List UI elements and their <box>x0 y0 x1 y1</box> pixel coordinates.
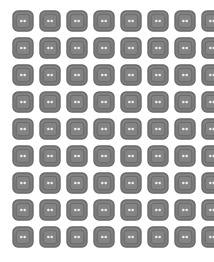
two-hole-button-icon <box>120 118 142 140</box>
two-hole-button-icon <box>201 10 214 32</box>
two-hole-button-icon <box>66 226 88 248</box>
two-hole-button-icon <box>93 91 115 113</box>
two-hole-button-icon <box>201 37 214 59</box>
two-hole-button-icon <box>93 10 115 32</box>
two-hole-button-icon <box>93 199 115 221</box>
two-hole-button-icon <box>12 37 34 59</box>
two-hole-button-icon <box>66 199 88 221</box>
two-hole-button-icon <box>201 199 214 221</box>
two-hole-button-icon <box>12 64 34 86</box>
two-hole-button-icon <box>174 64 196 86</box>
two-hole-button-icon <box>174 10 196 32</box>
two-hole-button-icon <box>39 226 61 248</box>
two-hole-button-icon <box>120 199 142 221</box>
two-hole-button-icon <box>201 226 214 248</box>
two-hole-button-icon <box>120 145 142 167</box>
two-hole-button-icon <box>174 145 196 167</box>
two-hole-button-icon <box>93 64 115 86</box>
two-hole-button-icon <box>120 172 142 194</box>
two-hole-button-icon <box>201 91 214 113</box>
two-hole-button-icon <box>12 199 34 221</box>
two-hole-button-icon <box>39 91 61 113</box>
two-hole-button-icon <box>93 145 115 167</box>
two-hole-button-icon <box>39 10 61 32</box>
icon-grid <box>0 0 214 262</box>
two-hole-button-icon <box>66 64 88 86</box>
two-hole-button-icon <box>147 145 169 167</box>
two-hole-button-icon <box>66 172 88 194</box>
two-hole-button-icon <box>174 226 196 248</box>
two-hole-button-icon <box>120 10 142 32</box>
two-hole-button-icon <box>120 37 142 59</box>
two-hole-button-icon <box>66 37 88 59</box>
two-hole-button-icon <box>12 91 34 113</box>
two-hole-button-icon <box>39 199 61 221</box>
two-hole-button-icon <box>39 145 61 167</box>
two-hole-button-icon <box>12 118 34 140</box>
two-hole-button-icon <box>147 37 169 59</box>
two-hole-button-icon <box>12 172 34 194</box>
two-hole-button-icon <box>174 37 196 59</box>
two-hole-button-icon <box>174 91 196 113</box>
two-hole-button-icon <box>174 118 196 140</box>
two-hole-button-icon <box>147 172 169 194</box>
two-hole-button-icon <box>12 10 34 32</box>
two-hole-button-icon <box>201 145 214 167</box>
two-hole-button-icon <box>174 199 196 221</box>
two-hole-button-icon <box>147 91 169 113</box>
two-hole-button-icon <box>147 10 169 32</box>
two-hole-button-icon <box>120 64 142 86</box>
two-hole-button-icon <box>66 118 88 140</box>
two-hole-button-icon <box>39 118 61 140</box>
two-hole-button-icon <box>120 226 142 248</box>
two-hole-button-icon <box>120 91 142 113</box>
two-hole-button-icon <box>147 118 169 140</box>
two-hole-button-icon <box>174 172 196 194</box>
two-hole-button-icon <box>147 226 169 248</box>
two-hole-button-icon <box>12 145 34 167</box>
two-hole-button-icon <box>201 172 214 194</box>
two-hole-button-icon <box>201 118 214 140</box>
two-hole-button-icon <box>201 64 214 86</box>
two-hole-button-icon <box>93 226 115 248</box>
two-hole-button-icon <box>39 172 61 194</box>
two-hole-button-icon <box>39 37 61 59</box>
two-hole-button-icon <box>66 91 88 113</box>
two-hole-button-icon <box>39 64 61 86</box>
two-hole-button-icon <box>12 226 34 248</box>
two-hole-button-icon <box>93 172 115 194</box>
two-hole-button-icon <box>93 118 115 140</box>
two-hole-button-icon <box>93 37 115 59</box>
two-hole-button-icon <box>147 199 169 221</box>
two-hole-button-icon <box>147 64 169 86</box>
two-hole-button-icon <box>66 145 88 167</box>
two-hole-button-icon <box>66 10 88 32</box>
